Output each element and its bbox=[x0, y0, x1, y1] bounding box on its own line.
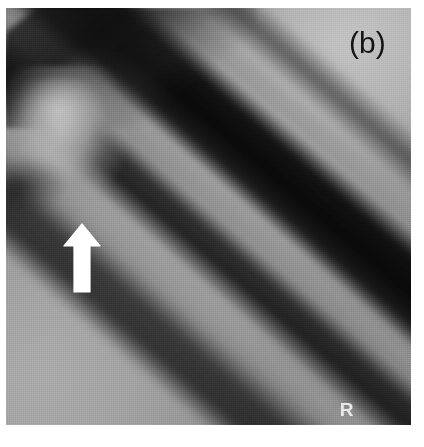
panel-label: (b) bbox=[349, 26, 386, 60]
arrow-up-icon bbox=[62, 222, 102, 294]
radiographic-side-marker: R bbox=[329, 397, 365, 423]
film-grain-texture bbox=[6, 8, 411, 425]
radiograph-image: R bbox=[6, 8, 411, 425]
figure-root: R (b) bbox=[0, 0, 424, 447]
